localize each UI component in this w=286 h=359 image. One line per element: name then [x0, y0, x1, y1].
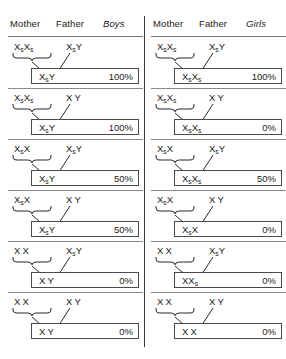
father-genotype: XY: [66, 92, 81, 103]
offspring-percent: 0%: [262, 224, 276, 235]
father-genotype: XY: [66, 194, 81, 205]
panel-boys-header: Mother Father Boys: [8, 16, 143, 38]
father-genotype: XsY: [66, 143, 82, 155]
offspring-percent: 0%: [119, 326, 133, 337]
offspring-result-box: XsXs100%: [174, 68, 282, 84]
offspring-percent: 50%: [114, 173, 133, 184]
father-genotype: XsY: [66, 41, 82, 53]
offspring-genotype: XsX: [182, 224, 198, 236]
brace-icon: [155, 104, 195, 112]
cross-row: XsXsXYXsY100%: [8, 89, 143, 140]
header-rule: [8, 36, 143, 37]
header-mother: Mother: [10, 18, 40, 29]
offspring-result-box: XsY50%: [31, 170, 139, 186]
offspring-genotype: XsY: [39, 71, 55, 83]
cross-row: XXXsYXXs0%: [151, 242, 286, 293]
offspring-genotype: XY: [39, 326, 54, 337]
brace-icon: [12, 104, 52, 112]
header-father: Father: [199, 18, 227, 29]
father-genotype: XsY: [209, 41, 225, 53]
brace-icon: [155, 155, 195, 163]
offspring-percent: 50%: [114, 224, 133, 235]
offspring-result-box: XX0%: [174, 323, 282, 339]
header-offspring-sex: Boys: [103, 18, 125, 29]
cross-row: XsXsXsYXsY100%: [8, 38, 143, 89]
mother-genotype: XsXs: [157, 41, 177, 53]
offspring-percent: 0%: [262, 122, 276, 133]
header-mother: Mother: [153, 18, 183, 29]
header-offspring-sex: Girls: [246, 18, 266, 29]
brace-icon: [155, 257, 195, 265]
offspring-result-box: XsY100%: [31, 119, 139, 135]
offspring-percent: 100%: [109, 122, 133, 133]
cross-row: XXXYXY0%: [8, 293, 143, 344]
cross-row: XsXXYXsY50%: [8, 191, 143, 242]
mother-genotype: XX: [157, 296, 172, 307]
father-genotype: XY: [209, 92, 224, 103]
brace-icon: [12, 53, 52, 61]
inheritance-punnett-chart: Mother Father Boys XsXsXsYXsY100%XsXsXYX…: [0, 0, 286, 359]
panel-divider: [144, 16, 145, 347]
offspring-result-box: XsXs50%: [174, 170, 282, 186]
offspring-percent: 0%: [262, 326, 276, 337]
offspring-result-box: XY0%: [31, 272, 139, 288]
panel-girls-header: Mother Father Girls: [151, 16, 286, 38]
offspring-result-box: XsY100%: [31, 68, 139, 84]
father-genotype: XsY: [209, 143, 225, 155]
brace-icon: [12, 206, 52, 214]
offspring-result-box: XXs0%: [174, 272, 282, 288]
offspring-genotype: XsXs: [182, 173, 202, 185]
offspring-result-box: XsXs0%: [174, 119, 282, 135]
mother-genotype: XsXs: [14, 41, 34, 53]
offspring-percent: 50%: [257, 173, 276, 184]
offspring-percent: 100%: [252, 71, 276, 82]
mother-genotype: XX: [14, 296, 29, 307]
mother-genotype: XsX: [14, 143, 30, 155]
father-genotype: XsY: [66, 245, 82, 257]
father-genotype: XY: [209, 194, 224, 205]
cross-row: XsXXYXsX0%: [151, 191, 286, 242]
cross-row: XsXXsYXsY50%: [8, 140, 143, 191]
brace-icon: [155, 53, 195, 61]
father-genotype: XY: [209, 296, 224, 307]
father-genotype: XY: [66, 296, 81, 307]
mother-genotype: XX: [157, 245, 172, 256]
offspring-genotype: XsY: [39, 173, 55, 185]
brace-icon: [155, 308, 195, 316]
header-rule: [151, 36, 286, 37]
panel-girls: Mother Father Girls XsXsXsYXsXs100%XsXsX…: [151, 16, 286, 347]
brace-icon: [12, 308, 52, 316]
offspring-result-box: XY0%: [31, 323, 139, 339]
panel-girls-rows: XsXsXsYXsXs100%XsXsXYXsXs0%XsXXsYXsXs50%…: [151, 38, 286, 344]
cross-row: XsXsXsYXsXs100%: [151, 38, 286, 89]
mother-genotype: XsXs: [14, 92, 34, 104]
offspring-percent: 0%: [262, 275, 276, 286]
cross-row: XXXsYXY0%: [8, 242, 143, 293]
mother-genotype: XsX: [14, 194, 30, 206]
mother-genotype: XsX: [157, 143, 173, 155]
brace-icon: [12, 155, 52, 163]
header-father: Father: [56, 18, 84, 29]
offspring-genotype: XXs: [182, 275, 198, 287]
offspring-percent: 0%: [119, 275, 133, 286]
cross-row: XsXXsYXsXs50%: [151, 140, 286, 191]
cross-row: XsXsXYXsXs0%: [151, 89, 286, 140]
offspring-genotype: XsXs: [182, 122, 202, 134]
offspring-result-box: XsY50%: [31, 221, 139, 237]
offspring-result-box: XsX0%: [174, 221, 282, 237]
offspring-genotype: XsXs: [182, 71, 202, 83]
offspring-genotype: XsY: [39, 122, 55, 134]
panel-boys: Mother Father Boys XsXsXsYXsY100%XsXsXYX…: [8, 16, 143, 347]
mother-genotype: XsXs: [157, 92, 177, 104]
offspring-percent: 100%: [109, 71, 133, 82]
offspring-genotype: XY: [39, 275, 54, 286]
panel-boys-rows: XsXsXsYXsY100%XsXsXYXsY100%XsXXsYXsY50%X…: [8, 38, 143, 344]
cross-row: XXXYXX0%: [151, 293, 286, 344]
father-genotype: XsY: [209, 245, 225, 257]
mother-genotype: XX: [14, 245, 29, 256]
brace-icon: [12, 257, 52, 265]
brace-icon: [155, 206, 195, 214]
offspring-genotype: XsY: [39, 224, 55, 236]
mother-genotype: XsX: [157, 194, 173, 206]
offspring-genotype: XX: [182, 326, 197, 337]
